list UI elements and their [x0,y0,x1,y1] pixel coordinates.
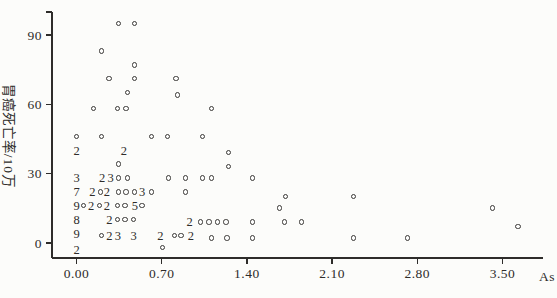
data-point-circle [132,189,137,194]
overlap-count-label: 7 [73,186,79,198]
data-point-circle [515,224,520,229]
x-tick-label: 2.10 [312,266,352,281]
data-point-circle [74,134,79,139]
data-point-circle [215,219,220,224]
data-point-circle [250,219,255,224]
overlap-count-label: 2 [187,216,193,228]
y-tick-label: 60 [0,97,42,112]
y-tick-label: 90 [0,28,42,43]
data-point-circle [299,219,304,224]
overlap-count-label: 2 [104,200,110,212]
overlap-count-label: 2 [73,244,79,256]
overlap-count-label: 3 [131,230,137,242]
overlap-count-label: 3 [73,172,79,184]
overlap-count-label: 2 [106,230,112,242]
overlap-count-label: 8 [73,214,79,226]
overlap-count-label: 9 [73,200,79,212]
overlap-count-label: 2 [89,186,95,198]
plot-axes [0,0,557,298]
x-axis-title: As [539,269,555,285]
overlap-count-label: 5 [132,200,138,212]
x-tick-label: 2.80 [397,266,437,281]
data-point-circle [223,219,228,224]
data-point-circle [125,175,130,180]
data-point-circle [209,235,214,240]
data-point-circle [123,189,128,194]
data-point-circle [175,92,180,97]
data-point-circle [198,219,203,224]
data-point-circle [224,235,229,240]
overlap-count-label: 3 [139,186,145,198]
data-point-circle [183,189,188,194]
data-point-circle [250,175,255,180]
overlap-count-label: 2 [104,186,110,198]
data-point-circle [166,175,171,180]
overlap-count-label: 9 [73,228,79,240]
data-point-circle [282,219,287,224]
overlap-count-label: 3 [115,230,121,242]
data-point-circle [98,189,103,194]
data-point-circle [209,175,214,180]
x-tick-label: 3.50 [482,266,522,281]
data-point-circle [490,205,495,210]
data-point-circle [405,235,410,240]
data-point-circle [149,189,154,194]
data-point-circle [277,205,282,210]
data-point-circle [206,219,211,224]
data-point-circle [139,203,144,208]
data-point-circle [250,235,255,240]
overlap-count-label: 2 [88,200,94,212]
x-tick-label: 1.40 [227,266,267,281]
overlap-count-label: 2 [73,144,79,156]
overlap-count-label: 2 [188,230,194,242]
overlap-count-label: 2 [157,230,163,242]
y-tick-label: 30 [0,166,42,181]
overlap-count-label: 2 [106,214,112,226]
data-point-circle [122,217,127,222]
data-point-circle [173,76,178,81]
x-tick-label: 0.00 [57,266,97,281]
x-tick-label: 0.70 [142,266,182,281]
data-point-circle [178,233,183,238]
scatter-plot-figure: 胃癌死亡率/10万 As 03060900.000.701.402.102.80… [0,0,557,298]
overlap-count-label: 3 [107,172,113,184]
data-point-circle [122,203,127,208]
y-tick-label: 0 [0,236,42,251]
overlap-count-label: 2 [121,144,127,156]
overlap-count-label: 2 [99,172,105,184]
data-point-circle [132,62,137,67]
